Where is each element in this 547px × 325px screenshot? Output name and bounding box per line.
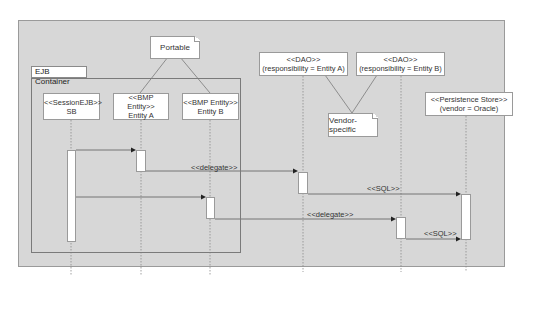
stereotype-label: <<Persistence Store>> (426, 95, 512, 104)
lifeline-name: (responsibility = Entity A) (260, 64, 347, 73)
message-label-sql-a: <<SQL>> (367, 184, 400, 193)
note-label: Portable (160, 43, 190, 52)
message-label-delegate-a: <<delegate>> (191, 163, 237, 172)
sequence-diagram: EJB Container Portable Vendor-specific <… (0, 0, 547, 325)
message-label-delegate-b: <<delegate>> (307, 210, 353, 219)
note-label: Vendor-specific (329, 116, 377, 134)
lifeline-name: SB (44, 107, 99, 116)
activation-session-ejb (67, 150, 76, 242)
lifeline-name: Entity A (114, 111, 168, 120)
stereotype-label: <<BMP Entity>> (114, 93, 168, 111)
stereotype-label: <<DAO>> (357, 55, 444, 64)
lifeline-name: (vendor = Oracle) (426, 104, 512, 113)
lifeline-head-entity-b: <<BMP Entity>> Entity B (182, 93, 239, 120)
lifeline-head-session-ejb: <<SessionEJB>> SB (43, 93, 100, 120)
note-vendor-specific: Vendor-specific (328, 113, 378, 137)
stereotype-label: <<BMP Entity>> (183, 98, 238, 107)
activation-persistence-store (461, 194, 471, 240)
lifeline-head-dao-a: <<DAO>> (responsibility = Entity A) (259, 52, 348, 76)
activation-entity-b (206, 197, 215, 219)
lifeline-head-dao-b: <<DAO>> (responsibility = Entity B) (356, 52, 445, 76)
stereotype-label: <<SessionEJB>> (44, 98, 99, 107)
lifeline-head-entity-a: <<BMP Entity>> Entity A (113, 93, 169, 120)
activation-entity-a (136, 150, 146, 172)
activation-dao-b (396, 217, 406, 239)
message-label-sql-b: <<SQL>> (424, 229, 457, 238)
stereotype-label: <<DAO>> (260, 55, 347, 64)
activation-dao-a (298, 172, 308, 194)
lifeline-name: Entity B (183, 107, 238, 116)
lifeline-head-persistence-store: <<Persistence Store>> (vendor = Oracle) (425, 92, 513, 116)
ejb-container-label: EJB Container (31, 66, 87, 78)
note-portable: Portable (150, 36, 200, 59)
lifeline-name: (responsibility = Entity B) (357, 64, 444, 73)
